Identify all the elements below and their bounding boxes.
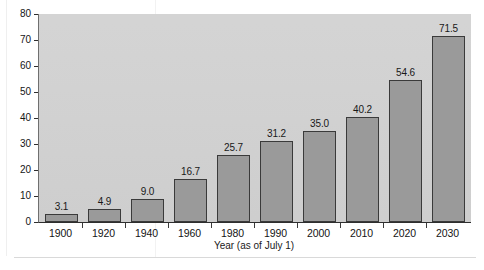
bar-slot: 3.1 bbox=[40, 14, 83, 222]
bar-slot: 71.5 bbox=[427, 14, 470, 222]
x-tick-label: 2000 bbox=[297, 227, 340, 240]
bar-slot: 40.2 bbox=[341, 14, 384, 222]
bar-value-label: 31.2 bbox=[255, 128, 298, 139]
bar[interactable] bbox=[260, 141, 293, 222]
y-tick-label: 30 bbox=[20, 139, 34, 149]
bar-value-label: 25.7 bbox=[212, 142, 255, 153]
bar[interactable] bbox=[88, 209, 121, 222]
bar[interactable] bbox=[432, 36, 465, 222]
y-tick-label: 10 bbox=[20, 191, 34, 201]
y-axis: 80 70 60 50 40 30 20 10 bbox=[0, 14, 38, 222]
x-tick-label: 1920 bbox=[82, 227, 125, 240]
bar-value-label: 3.1 bbox=[40, 201, 83, 212]
bar-slot: 16.7 bbox=[169, 14, 212, 222]
bar-value-label: 16.7 bbox=[169, 166, 212, 177]
x-tick-label: 2030 bbox=[426, 227, 469, 240]
bar[interactable] bbox=[389, 80, 422, 222]
y-tick-label: 80 bbox=[20, 9, 34, 19]
bar[interactable] bbox=[346, 117, 379, 222]
plot-area: 3.14.99.016.725.731.235.040.254.671.5 bbox=[38, 14, 471, 223]
bar-slot: 9.0 bbox=[126, 14, 169, 222]
bar-value-label: 9.0 bbox=[126, 186, 169, 197]
bar-slot: 25.7 bbox=[212, 14, 255, 222]
bar-slot: 4.9 bbox=[83, 14, 126, 222]
y-tick-label: 40 bbox=[20, 113, 34, 123]
x-tick-label: 1960 bbox=[168, 227, 211, 240]
bar-slot: 35.0 bbox=[298, 14, 341, 222]
bar[interactable] bbox=[45, 214, 78, 222]
y-tick-label: 50 bbox=[20, 87, 34, 97]
bar[interactable] bbox=[174, 179, 207, 222]
x-tick-label: 1900 bbox=[39, 227, 82, 240]
x-tick-label: 2020 bbox=[383, 227, 426, 240]
x-axis-title: Year (as of July 1) bbox=[38, 240, 470, 252]
y-tick-label: 20 bbox=[20, 165, 34, 175]
y-tick-label: 70 bbox=[20, 35, 34, 45]
x-tick-label: 1940 bbox=[125, 227, 168, 240]
bar-series: 3.14.99.016.725.731.235.040.254.671.5 bbox=[39, 14, 471, 222]
bar-value-label: 40.2 bbox=[341, 104, 384, 115]
bar[interactable] bbox=[303, 131, 336, 222]
bar-slot: 31.2 bbox=[255, 14, 298, 222]
x-tick-labels: 1900192019401960198019902000201020202030 bbox=[38, 227, 470, 240]
y-tick-label: 60 bbox=[20, 61, 34, 71]
x-tick-label: 1980 bbox=[211, 227, 254, 240]
bar-chart-figure: 80 70 60 50 40 30 20 10 bbox=[0, 0, 484, 270]
x-tick-label: 1990 bbox=[254, 227, 297, 240]
x-tick-label: 2010 bbox=[340, 227, 383, 240]
bar-value-label: 71.5 bbox=[427, 23, 470, 34]
bar[interactable] bbox=[217, 155, 250, 222]
bar[interactable] bbox=[131, 199, 164, 222]
bar-value-label: 4.9 bbox=[83, 196, 126, 207]
bar-slot: 54.6 bbox=[384, 14, 427, 222]
bar-value-label: 35.0 bbox=[298, 118, 341, 129]
y-tick-label: 0 bbox=[25, 217, 34, 227]
page-bottom-rule bbox=[14, 257, 476, 258]
bar-value-label: 54.6 bbox=[384, 67, 427, 78]
